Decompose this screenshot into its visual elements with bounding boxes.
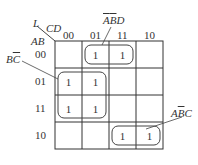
kmap-cell: [55, 41, 82, 68]
col-header: 01: [90, 30, 101, 41]
kmap-cell: [136, 41, 163, 68]
row-header: 01: [35, 76, 46, 87]
group-abc-label: ABC: [171, 108, 192, 119]
row-header: 10: [35, 130, 46, 141]
kmap-cell: [109, 68, 136, 95]
kmap-cell: [82, 122, 109, 149]
kmap-cell: [109, 95, 136, 122]
col-header: 10: [144, 30, 155, 41]
group-abd-label: ABD: [103, 15, 124, 26]
col-header: 00: [63, 30, 74, 41]
kmap-cell: [55, 122, 82, 149]
kmap-cell: 1: [109, 122, 136, 149]
corner-cd-label: CD: [46, 23, 61, 34]
row-header: 11: [35, 103, 46, 114]
kmap-cell: [136, 68, 163, 95]
kmap-cell: [136, 95, 163, 122]
kmap-cell: 1: [55, 68, 82, 95]
kmap-cell: 1: [82, 68, 109, 95]
kmap-cell: 1: [136, 122, 163, 149]
kmap-cell: 1: [82, 41, 109, 68]
kmap-cell: 1: [109, 41, 136, 68]
col-header: 11: [117, 30, 128, 41]
kmap-cell: 1: [55, 95, 82, 122]
corner-ab-label: AB: [31, 36, 44, 47]
corner-l-label: L: [33, 18, 39, 29]
kmap-cell: 1: [82, 95, 109, 122]
row-header: 00: [35, 49, 46, 60]
group-bc-label: BC: [6, 54, 20, 65]
